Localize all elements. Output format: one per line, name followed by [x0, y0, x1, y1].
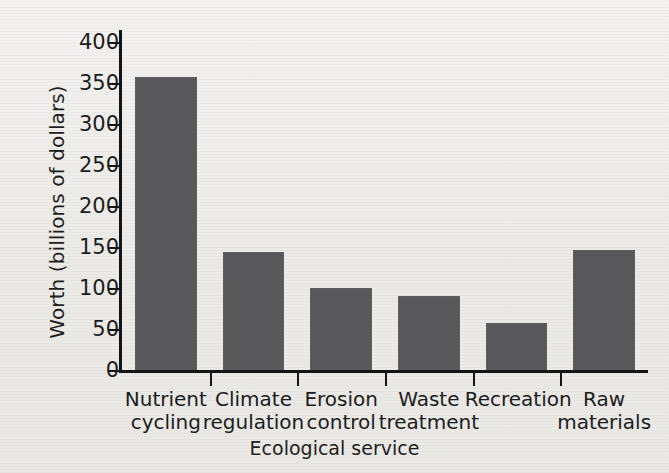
- y-axis-tick-mark: [108, 329, 120, 331]
- y-axis-tick-mark: [108, 83, 120, 85]
- bar-nutrient-cycling: [135, 77, 196, 371]
- y-axis-tick-mark: [108, 165, 120, 167]
- bar-recreation: [486, 323, 547, 371]
- y-axis-tick-mark: [108, 247, 120, 249]
- bar-chart: Worth (billions of dollars) 050100150200…: [0, 0, 669, 473]
- x-axis-label-line: Raw: [552, 388, 656, 411]
- x-axis-tick-mark: [210, 373, 212, 386]
- bar-raw-materials: [573, 250, 634, 371]
- x-axis-label-line: materials: [552, 411, 656, 434]
- y-axis-tick-mark: [108, 42, 120, 44]
- x-axis-tick-mark: [297, 373, 299, 386]
- x-axis-tick-mark: [473, 373, 475, 386]
- y-axis-tick-mark: [108, 206, 120, 208]
- y-axis-tick-mark: [108, 124, 120, 126]
- x-axis-label-raw-materials: Rawmaterials: [552, 388, 656, 434]
- x-axis-label-line: treatment: [377, 411, 481, 434]
- x-axis-title: Ecological service: [0, 437, 669, 459]
- bar-erosion-control: [310, 288, 371, 371]
- x-axis-tick-mark: [560, 373, 562, 386]
- bar-waste-treatment: [398, 296, 459, 371]
- x-axis-line: [119, 370, 648, 373]
- plot-area: [122, 43, 648, 371]
- bar-climate-regulation: [223, 252, 284, 371]
- x-axis-tick-mark: [385, 373, 387, 386]
- y-axis-tick-mark: [108, 288, 120, 290]
